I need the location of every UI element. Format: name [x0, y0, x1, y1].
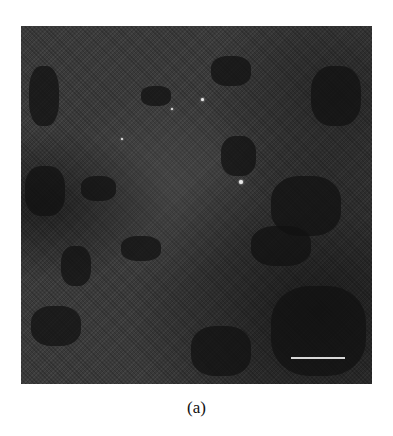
- dark-region: [251, 226, 311, 266]
- dark-region: [211, 56, 251, 86]
- bright-spot: [171, 108, 173, 110]
- dark-region: [121, 236, 161, 261]
- bright-spot: [121, 138, 123, 140]
- dark-region: [61, 246, 91, 286]
- panel-label: (a): [0, 398, 393, 418]
- dark-region: [81, 176, 116, 201]
- dark-region: [221, 136, 256, 176]
- dark-region: [191, 326, 251, 376]
- dark-region: [141, 86, 171, 106]
- bright-spot: [239, 180, 243, 184]
- scale-bar: [291, 357, 345, 359]
- dark-region: [29, 66, 59, 126]
- bright-spot: [201, 98, 204, 101]
- dark-region: [311, 66, 361, 126]
- micrograph-image: [21, 26, 372, 384]
- dark-region: [31, 306, 81, 346]
- dark-region: [271, 286, 366, 376]
- dark-region: [25, 166, 65, 216]
